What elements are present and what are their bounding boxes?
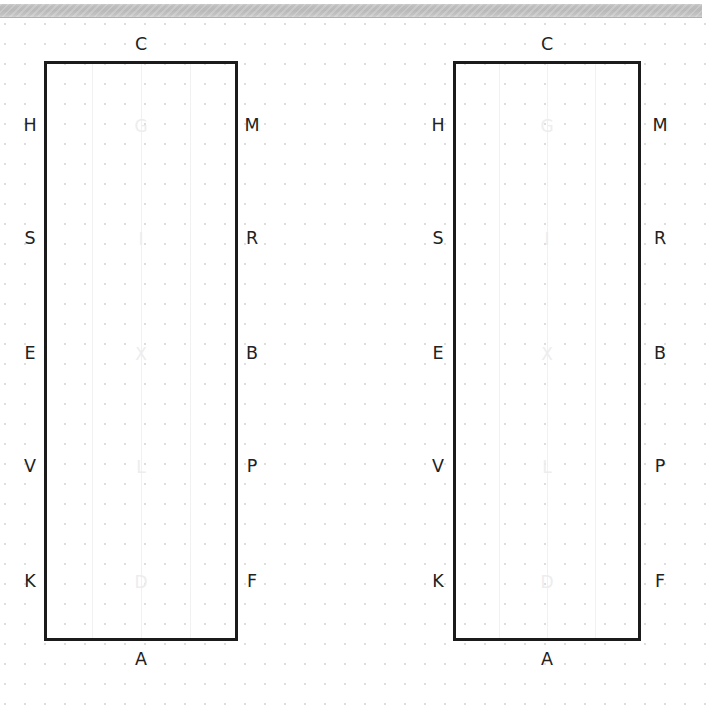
figure-2-left-label-4: V xyxy=(432,458,444,476)
figure-2-top-label: C xyxy=(541,36,553,54)
figure-2-right-label-1: M xyxy=(652,117,667,135)
figure-2-bottom-label: A xyxy=(541,651,553,669)
figure-2-inner-label-4: L xyxy=(542,459,551,476)
horizontal-scrollbar[interactable] xyxy=(0,0,712,20)
figure-2-inner-label-5: D xyxy=(540,574,553,591)
figure-2-inner-label-3: X xyxy=(541,346,553,363)
figure-2-inner-label-1: G xyxy=(540,118,553,135)
figure-2-right-label-5: F xyxy=(655,573,665,591)
figure-2-guide-line-a xyxy=(499,64,500,638)
figure-2: C A H S E V K M R B P F G I X L D xyxy=(0,0,712,712)
figure-2-right-label-2: R xyxy=(654,230,666,248)
figure-2-left-label-3: E xyxy=(432,345,443,363)
figure-2-right-label-4: P xyxy=(655,458,666,476)
figure-2-inner-label-2: I xyxy=(544,231,549,248)
scrollbar-thumb[interactable] xyxy=(0,4,702,18)
figure-2-guide-line-c xyxy=(595,64,596,638)
figure-2-left-label-1: H xyxy=(431,117,444,135)
figure-2-left-label-5: K xyxy=(432,573,443,591)
figure-2-right-label-3: B xyxy=(654,345,666,363)
figure-2-left-label-2: S xyxy=(432,230,443,248)
